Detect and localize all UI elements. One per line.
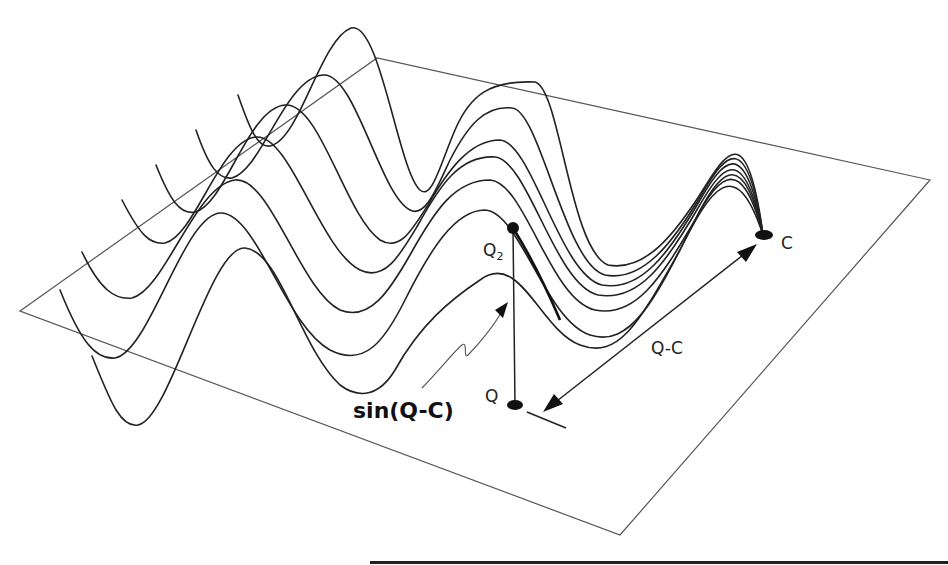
label-q2: Q2 [483, 240, 503, 263]
arrowhead-q-icon [543, 394, 563, 412]
bottom-rule [370, 561, 948, 564]
distance-arrow [548, 248, 752, 408]
projection-line [513, 228, 515, 405]
label-c: C [781, 233, 793, 253]
point-q [507, 400, 523, 410]
arrowhead-formula-icon [495, 302, 508, 318]
wave-diagram: Q2 Q C Q-C sin(Q-C) [0, 0, 948, 565]
formula-pointer [422, 306, 505, 388]
point-c [755, 230, 773, 240]
label-formula: sin(Q-C) [353, 398, 454, 423]
q-tick-line [527, 412, 566, 428]
wave-curve-3 [82, 175, 763, 313]
label-q: Q [485, 386, 498, 406]
point-q2 [507, 222, 519, 234]
base-plane [20, 58, 930, 535]
wave-curve-1 [92, 186, 763, 425]
arrowhead-c-icon [737, 244, 757, 262]
label-distance: Q-C [651, 338, 683, 358]
